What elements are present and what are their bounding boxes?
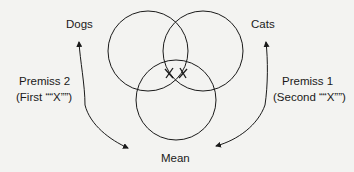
premiss2-label: Premiss 2 — [19, 74, 70, 88]
arrow-dogs — [79, 42, 85, 105]
arrow-premiss1-to-mean — [216, 105, 265, 146]
mean-circle — [136, 60, 216, 140]
premiss1-note: (Second ““X””) — [273, 90, 346, 104]
premiss2-note: (First ““X””) — [16, 90, 72, 104]
dogs-circle — [108, 11, 188, 91]
cats-circle — [163, 11, 243, 91]
x-mark-first — [165, 68, 173, 78]
arrow-cats — [265, 42, 267, 105]
mean-label: Mean — [161, 151, 190, 165]
premiss1-label: Premiss 1 — [282, 74, 333, 88]
arrow-premiss2-to-mean — [85, 105, 128, 148]
dogs-label: Dogs — [66, 17, 93, 31]
cats-label: Cats — [251, 17, 275, 31]
